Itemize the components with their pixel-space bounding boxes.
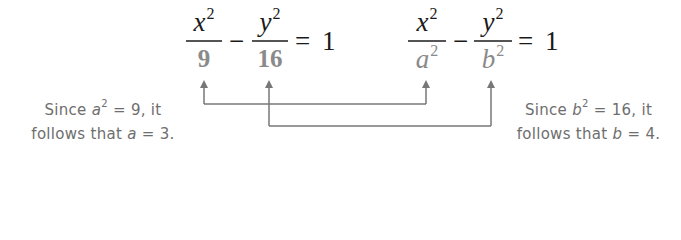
note-right-line2: follows that b = 4. [496, 122, 681, 146]
note-left-line2: follows that a = 3. [8, 122, 198, 146]
note-left-line1: Since a2 = 9, it [8, 94, 198, 122]
arrowhead-icon [422, 80, 430, 88]
note-left: Since a2 = 9, it follows that a = 3. [8, 94, 198, 146]
note-right-line1: Since b2 = 16, it [496, 94, 681, 122]
arrowhead-icon [265, 80, 273, 88]
arrowhead-icon [487, 80, 495, 88]
note-right: Since b2 = 16, it follows that b = 4. [496, 94, 681, 146]
arrowhead-icon [200, 80, 208, 88]
